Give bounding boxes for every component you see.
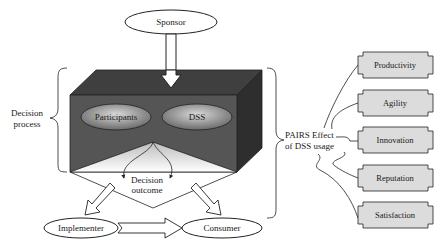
pairs-label-1: PAIRS Effect bbox=[285, 130, 334, 140]
outcome-box-productivity: Productivity bbox=[358, 52, 433, 78]
outcome-box-innovation: Innovation bbox=[358, 127, 433, 153]
implementer-label: Implementer bbox=[58, 223, 104, 233]
agility-label: Agility bbox=[383, 98, 408, 108]
pairs-label-2: of DSS usage bbox=[285, 141, 334, 151]
participants-node: Participants bbox=[81, 104, 151, 130]
reputation-label: Reputation bbox=[376, 173, 414, 183]
consumer-arrow bbox=[191, 183, 221, 215]
consumer-label: Consumer bbox=[204, 223, 241, 233]
decision-process-label-2: process bbox=[14, 119, 41, 129]
consumer-node: Consumer bbox=[182, 218, 262, 238]
outcome-label-2: outcome bbox=[132, 185, 163, 195]
implementer-to-consumer-arrow bbox=[118, 218, 182, 238]
satisfaction-label: Satisfaction bbox=[375, 210, 416, 220]
participants-label: Participants bbox=[95, 112, 138, 122]
decision-process-brace bbox=[50, 68, 67, 172]
outcome-box-satisfaction: Satisfaction bbox=[358, 202, 433, 228]
outcome-box-agility: Agility bbox=[358, 90, 433, 116]
implementer-arrow bbox=[85, 183, 115, 215]
dss-node: DSS bbox=[162, 104, 232, 130]
productivity-label: Productivity bbox=[374, 60, 417, 70]
diagram-canvas: Sponsor Participants DSS Decision outcom… bbox=[0, 0, 445, 248]
outcome-box-reputation: Reputation bbox=[358, 165, 433, 191]
decision-process-label-1: Decision bbox=[11, 108, 43, 118]
sponsor-node: Sponsor bbox=[125, 10, 217, 34]
outcome-label-1: Decision bbox=[131, 175, 163, 185]
pairs-brace bbox=[267, 68, 284, 218]
sponsor-label: Sponsor bbox=[156, 17, 186, 27]
innovation-label: Innovation bbox=[377, 135, 415, 145]
dss-label: DSS bbox=[189, 112, 206, 122]
implementer-node: Implementer bbox=[44, 218, 118, 238]
